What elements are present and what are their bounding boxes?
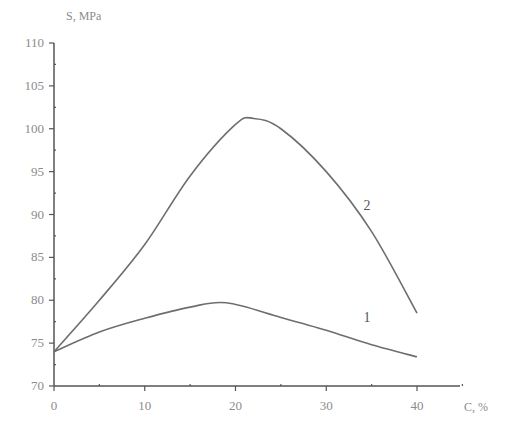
line-chart: 707580859095100105110 010203040 12 S, MP…: [0, 0, 509, 431]
curve-labels: 12: [364, 198, 371, 324]
y-tick-label: 110: [25, 35, 44, 50]
series-curve-2: [54, 118, 417, 352]
y-tick-label: 85: [31, 249, 44, 264]
curve-label-1: 1: [364, 310, 371, 325]
x-axis-title: C, %: [464, 400, 488, 414]
y-tick-label: 95: [31, 164, 44, 179]
curve-label-2: 2: [364, 198, 371, 213]
series-curve-1: [54, 302, 417, 356]
x-tick-label: 0: [51, 398, 58, 413]
x-tick-label: 20: [229, 398, 242, 413]
x-tick-label: 40: [411, 398, 424, 413]
y-tick-label: 70: [31, 378, 44, 393]
y-tick-label: 105: [25, 78, 45, 93]
y-axis: 707580859095100105110: [25, 35, 57, 393]
y-tick-label: 90: [31, 207, 44, 222]
x-tick-label: 10: [138, 398, 151, 413]
series-group: [54, 118, 417, 357]
y-tick-label: 100: [25, 121, 45, 136]
y-tick-label: 75: [31, 335, 44, 350]
y-tick-label: 80: [31, 292, 44, 307]
x-axis: 010203040: [51, 384, 463, 413]
y-axis-title: S, MPa: [66, 9, 102, 23]
x-tick-label: 30: [320, 398, 333, 413]
